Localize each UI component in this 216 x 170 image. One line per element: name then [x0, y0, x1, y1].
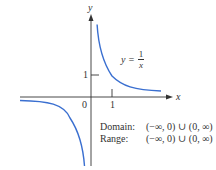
equation-fraction: 1 x — [138, 49, 145, 70]
equation-numerator: 1 — [138, 49, 145, 60]
equation-lhs: y = — [121, 54, 135, 65]
range-key: Range: — [100, 133, 146, 145]
x-axis-label: x — [176, 92, 180, 102]
equation-denominator: x — [139, 60, 143, 70]
x-axis-arrow-icon — [166, 95, 173, 100]
origin-label: 0 — [82, 100, 87, 110]
range-row: Range: (−∞, 0) ∪ (0, ∞) — [100, 133, 213, 145]
domain-key: Domain: — [100, 121, 146, 133]
domain-value: (−∞, 0) ∪ (0, ∞) — [146, 121, 213, 133]
range-value: (−∞, 0) ∪ (0, ∞) — [146, 133, 213, 145]
y-axis-arrow-icon — [89, 14, 94, 21]
y-tick-label-1: 1 — [83, 70, 88, 80]
curve-negative-branch — [20, 101, 85, 167]
equation-label: y = 1 x — [121, 49, 144, 70]
y-axis-label: y — [88, 3, 92, 13]
domain-row: Domain: (−∞, 0) ∪ (0, ∞) — [100, 121, 213, 133]
x-tick-label-1: 1 — [110, 100, 115, 110]
domain-range-annotation: Domain: (−∞, 0) ∪ (0, ∞) Range: (−∞, 0) … — [100, 121, 213, 145]
